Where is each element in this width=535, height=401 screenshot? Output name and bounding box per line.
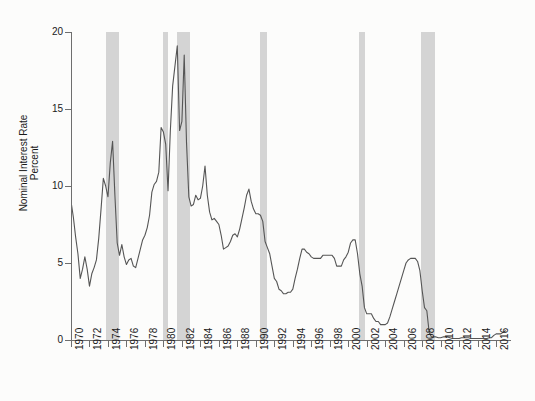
x-tick-mark: [237, 341, 238, 347]
x-tick-label: 1980: [167, 328, 177, 350]
x-tick-label: 2016: [500, 328, 510, 350]
x-tick-mark: [404, 341, 405, 347]
x-tick-mark: [422, 341, 423, 347]
x-tick-label: 1998: [334, 328, 344, 350]
y-axis-title-line-1: Nominal Interest Rate: [18, 103, 29, 223]
x-tick-label: 1972: [93, 328, 103, 350]
x-tick-label: 1994: [297, 328, 307, 350]
x-tick-label: 1986: [223, 328, 233, 350]
y-tick-label: 0: [23, 335, 63, 345]
x-tick-mark: [496, 341, 497, 347]
x-tick-mark: [71, 341, 72, 347]
x-tick-label: 1990: [260, 328, 270, 350]
x-tick-mark: [478, 341, 479, 347]
plot-area: [71, 32, 510, 340]
y-tick-mark: [65, 263, 71, 264]
series-line-path: [71, 46, 505, 339]
x-tick-label: 1982: [186, 328, 196, 350]
y-tick-label-wrap: 20: [18, 27, 63, 37]
y-tick-label-wrap: 10: [18, 181, 63, 191]
x-tick-mark: [274, 341, 275, 347]
x-tick-mark: [256, 341, 257, 347]
x-tick-mark: [293, 341, 294, 347]
x-tick-label: 1988: [241, 328, 251, 350]
x-tick-label: 2004: [389, 328, 399, 350]
x-tick-mark: [385, 341, 386, 347]
x-tick-label: 1992: [278, 328, 288, 350]
y-axis-line: [71, 32, 72, 341]
x-tick-label: 1970: [75, 328, 85, 350]
x-tick-mark: [348, 341, 349, 347]
x-tick-label: 2008: [426, 328, 436, 350]
y-tick-mark: [65, 32, 71, 33]
x-tick-label: 2002: [371, 328, 381, 350]
y-axis-title: Nominal Interest Rate Percent: [18, 103, 40, 223]
y-tick-label-wrap: 15: [18, 104, 63, 114]
x-tick-mark: [89, 341, 90, 347]
y-tick-mark: [65, 109, 71, 110]
x-tick-label: 2006: [408, 328, 418, 350]
x-tick-mark: [108, 341, 109, 347]
x-tick-label: 2010: [445, 328, 455, 350]
x-tick-label: 2000: [352, 328, 362, 350]
y-tick-label-wrap: 5: [18, 258, 63, 268]
x-tick-mark: [459, 341, 460, 347]
x-tick-label: 2012: [463, 328, 473, 350]
x-tick-mark: [219, 341, 220, 347]
y-tick-label: 15: [23, 104, 63, 114]
x-tick-label: 1984: [204, 328, 214, 350]
y-tick-mark: [65, 186, 71, 187]
x-tick-mark: [163, 341, 164, 347]
x-tick-label: 1976: [130, 328, 140, 350]
x-tick-label: 1974: [112, 328, 122, 350]
y-tick-label: 5: [23, 258, 63, 268]
chart-figure: Nominal Interest Rate Percent 05101520 1…: [0, 0, 535, 401]
x-tick-label: 2014: [482, 328, 492, 350]
y-axis-title-line-2: Percent: [29, 103, 40, 223]
x-tick-label: 1996: [315, 328, 325, 350]
y-tick-label: 20: [23, 27, 63, 37]
x-tick-mark: [126, 341, 127, 347]
x-tick-label: 1978: [149, 328, 159, 350]
y-tick-label: 10: [23, 181, 63, 191]
x-tick-mark: [330, 341, 331, 347]
series-line-group: [71, 32, 510, 340]
x-tick-mark: [311, 341, 312, 347]
x-tick-mark: [367, 341, 368, 347]
x-tick-mark: [441, 341, 442, 347]
x-tick-mark: [200, 341, 201, 347]
y-tick-label-wrap: 0: [18, 335, 63, 345]
x-tick-mark: [182, 341, 183, 347]
x-tick-mark: [145, 341, 146, 347]
